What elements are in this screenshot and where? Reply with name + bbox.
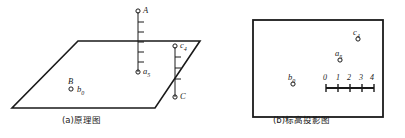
label-point-b0: b0 (77, 85, 84, 96)
plan-label-point-c4: c4 (353, 28, 360, 39)
plan-label-point-b0: b0 (288, 73, 295, 84)
plan-label-point-a5: a5 (335, 49, 342, 60)
label-point-c4: c4 (180, 41, 187, 52)
label-point-c: C (180, 92, 186, 101)
elevation-projection-figure: A a5 B b0 c4 C (a)原理图 c4 a5 b0 0 1 2 3 4… (0, 0, 405, 138)
ground-plane-parallelogram (12, 41, 200, 108)
scale-label-3: 3 (359, 74, 363, 82)
scale-label-1: 1 (336, 74, 340, 82)
scale-label-2: 2 (347, 74, 351, 82)
projection-plan-box (253, 20, 383, 117)
label-point-b: B (68, 77, 73, 86)
scale-label-4: 4 (370, 74, 374, 82)
label-point-a5: a5 (143, 67, 150, 78)
panel-a-caption: (a)原理图 (62, 116, 101, 125)
label-point-a: A (143, 6, 148, 15)
point-b0-marker (69, 87, 73, 91)
figure-vector-canvas (0, 0, 405, 138)
scale-label-0: 0 (323, 74, 327, 82)
panel-b-caption: (b)标高投影图 (273, 116, 330, 125)
